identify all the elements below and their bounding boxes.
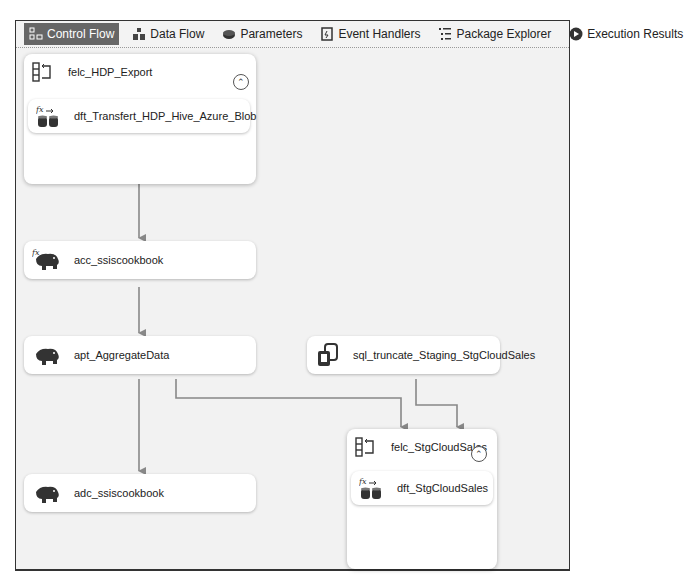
execute-sql-task-icon	[315, 343, 341, 367]
tab-data-flow[interactable]: Data Flow	[127, 23, 209, 45]
foreach-loop-container-icon	[355, 437, 375, 457]
parameters-icon	[222, 27, 236, 41]
hadoop-elephant-icon	[32, 480, 62, 506]
control-flow-canvas[interactable]: felc_HDP_Export ⌃ fx dft_Transfert_HDP_H…	[16, 48, 569, 569]
hadoop-pig-task[interactable]: apt_AggregateData	[24, 336, 256, 374]
ssis-designer-window: Control Flow Data Flow Parameters Event …	[15, 20, 570, 571]
tab-event-handlers[interactable]: Event Handlers	[315, 23, 425, 45]
tab-parameters[interactable]: Parameters	[217, 23, 307, 45]
task-label: sql_truncate_Staging_StgCloudSales	[353, 349, 535, 361]
constraint-arrow	[416, 379, 457, 427]
data-flow-task[interactable]: fx dft_StgCloudSales	[351, 471, 493, 505]
tab-execution-results[interactable]: Execution Results	[564, 23, 688, 45]
tab-control-flow[interactable]: Control Flow	[24, 23, 119, 45]
execute-sql-task[interactable]: sql_truncate_Staging_StgCloudSales	[307, 336, 500, 374]
task-label: apt_AggregateData	[74, 349, 169, 361]
tab-label: Event Handlers	[338, 27, 420, 41]
tab-label: Data Flow	[150, 27, 204, 41]
data-flow-task-icon: fx	[359, 476, 385, 500]
collapse-button[interactable]: ⌃	[233, 74, 249, 90]
chevron-up-icon: ⌃	[475, 449, 483, 459]
task-label: dft_Transfert_HDP_Hive_Azure_Blob	[74, 110, 256, 122]
foreach-loop-container[interactable]: felc_StgCloudSales ⌃ fx dft_StgCloudSale…	[347, 429, 497, 569]
tab-label: Control Flow	[47, 27, 114, 41]
tab-label: Parameters	[240, 27, 302, 41]
svg-text:fx: fx	[36, 105, 44, 114]
data-flow-task-icon: fx	[36, 104, 62, 128]
svg-text:fx: fx	[359, 477, 367, 486]
task-label: acc_ssiscookbook	[74, 254, 163, 266]
hadoop-hive-task[interactable]: fx acc_ssiscookbook	[24, 241, 256, 279]
foreach-loop-container[interactable]: felc_HDP_Export ⌃ fx dft_Transfert_HDP_H…	[24, 54, 256, 184]
package-explorer-icon	[438, 27, 452, 41]
hadoop-hive-task[interactable]: adc_ssiscookbook	[24, 474, 256, 512]
task-label: dft_StgCloudSales	[397, 482, 488, 494]
collapse-button[interactable]: ⌃	[471, 446, 487, 462]
data-flow-task[interactable]: fx dft_Transfert_HDP_Hive_Azure_Blob	[28, 99, 250, 133]
svg-text:fx: fx	[32, 248, 40, 257]
container-label: felc_HDP_Export	[68, 66, 152, 78]
constraint-arrow	[176, 379, 401, 427]
task-label: adc_ssiscookbook	[74, 487, 164, 499]
hadoop-elephant-icon	[32, 342, 62, 368]
event-handlers-icon	[320, 27, 334, 41]
data-flow-icon	[132, 27, 146, 41]
execution-results-icon	[569, 27, 583, 41]
tab-label: Package Explorer	[456, 27, 551, 41]
chevron-up-icon: ⌃	[237, 77, 245, 87]
control-flow-icon	[29, 27, 43, 41]
designer-tab-bar: Control Flow Data Flow Parameters Event …	[16, 21, 569, 48]
tab-label: Execution Results	[587, 27, 683, 41]
hadoop-elephant-icon: fx	[32, 247, 62, 273]
tab-package-explorer[interactable]: Package Explorer	[433, 23, 556, 45]
foreach-loop-container-icon	[32, 62, 52, 82]
